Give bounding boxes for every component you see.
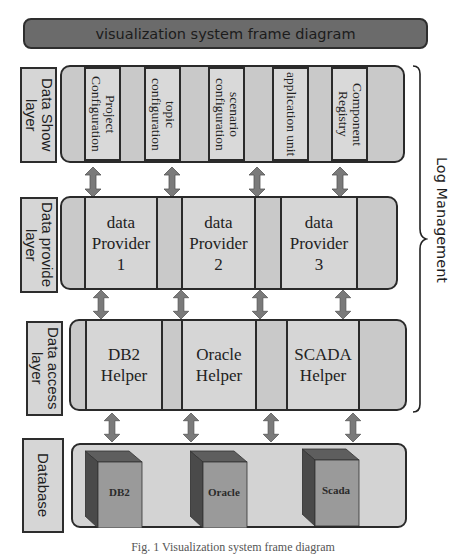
box-text: SCADA Helper	[294, 344, 352, 386]
box-text: data Provider 3	[290, 212, 349, 275]
box-text: DB2 Helper	[101, 344, 147, 386]
box-text: Project Configuration	[89, 69, 117, 159]
box-text: data Provider 1	[92, 212, 151, 275]
double-arrow-icon	[345, 413, 361, 442]
figure-caption: Fig. 1 Visualization system frame diagra…	[0, 540, 466, 555]
layer-label-text: Data access layer	[29, 323, 61, 414]
double-arrow-icon	[252, 290, 268, 319]
box-text: topic configuration	[149, 69, 177, 159]
layer-label-text: Data provide layer	[23, 199, 55, 291]
double-arrow-icon	[263, 413, 279, 442]
topic-configuration-box: topic configuration	[144, 66, 181, 162]
application-unit-box: application unit	[272, 66, 309, 162]
db2-helper-box: DB2 Helper	[85, 321, 163, 409]
log-management-label: Log Management	[430, 130, 454, 310]
db2-database-cube-icon: DB2	[85, 448, 143, 528]
double-arrow-icon	[249, 167, 265, 197]
double-arrow-icon	[164, 167, 180, 197]
data-provider-3-box: data Provider 3	[280, 198, 358, 288]
scenario-configuration-box: scenario configuration	[208, 66, 245, 162]
data-provider-2-box: data Provider 2	[181, 198, 256, 288]
double-arrow-icon	[104, 413, 120, 442]
layer-label-data-provide: Data provide layer	[20, 197, 58, 293]
double-arrow-icon	[85, 167, 101, 197]
layer-label-text: Database	[35, 453, 51, 517]
double-arrow-icon	[173, 290, 189, 319]
database-name: Oracle	[208, 486, 240, 498]
layer-label-text: Data Show layer	[23, 69, 55, 161]
double-arrow-icon	[183, 413, 199, 442]
database-name: Scada	[322, 484, 350, 496]
data-provider-1-box: data Provider 1	[84, 198, 158, 288]
double-arrow-icon	[335, 290, 351, 319]
oracle-helper-box: Oracle Helper	[181, 321, 257, 409]
component-registry-box: Component Registry	[331, 66, 368, 162]
double-arrow-icon	[332, 167, 348, 197]
project-configuration-box: Project Configuration	[84, 66, 121, 162]
scada-database-cube-icon: Scada	[302, 446, 360, 526]
layer-label-data-access: Data access layer	[26, 321, 63, 416]
box-text: scenario configuration	[213, 69, 241, 159]
database-name: DB2	[109, 486, 130, 498]
scada-helper-box: SCADA Helper	[286, 321, 360, 409]
box-text: data Provider 2	[189, 212, 248, 275]
oracle-database-cube-icon: Oracle	[190, 448, 248, 528]
layer-label-database: Database	[22, 438, 64, 533]
diagram-title: visualization system frame diagram	[23, 18, 428, 49]
box-text: Component Registry	[336, 69, 364, 159]
double-arrow-icon	[93, 290, 109, 319]
layer-label-data-show: Data Show layer	[20, 67, 57, 163]
box-text: Oracle Helper	[196, 344, 242, 386]
box-text: application unit	[284, 72, 298, 156]
right-brace-icon	[412, 64, 428, 414]
